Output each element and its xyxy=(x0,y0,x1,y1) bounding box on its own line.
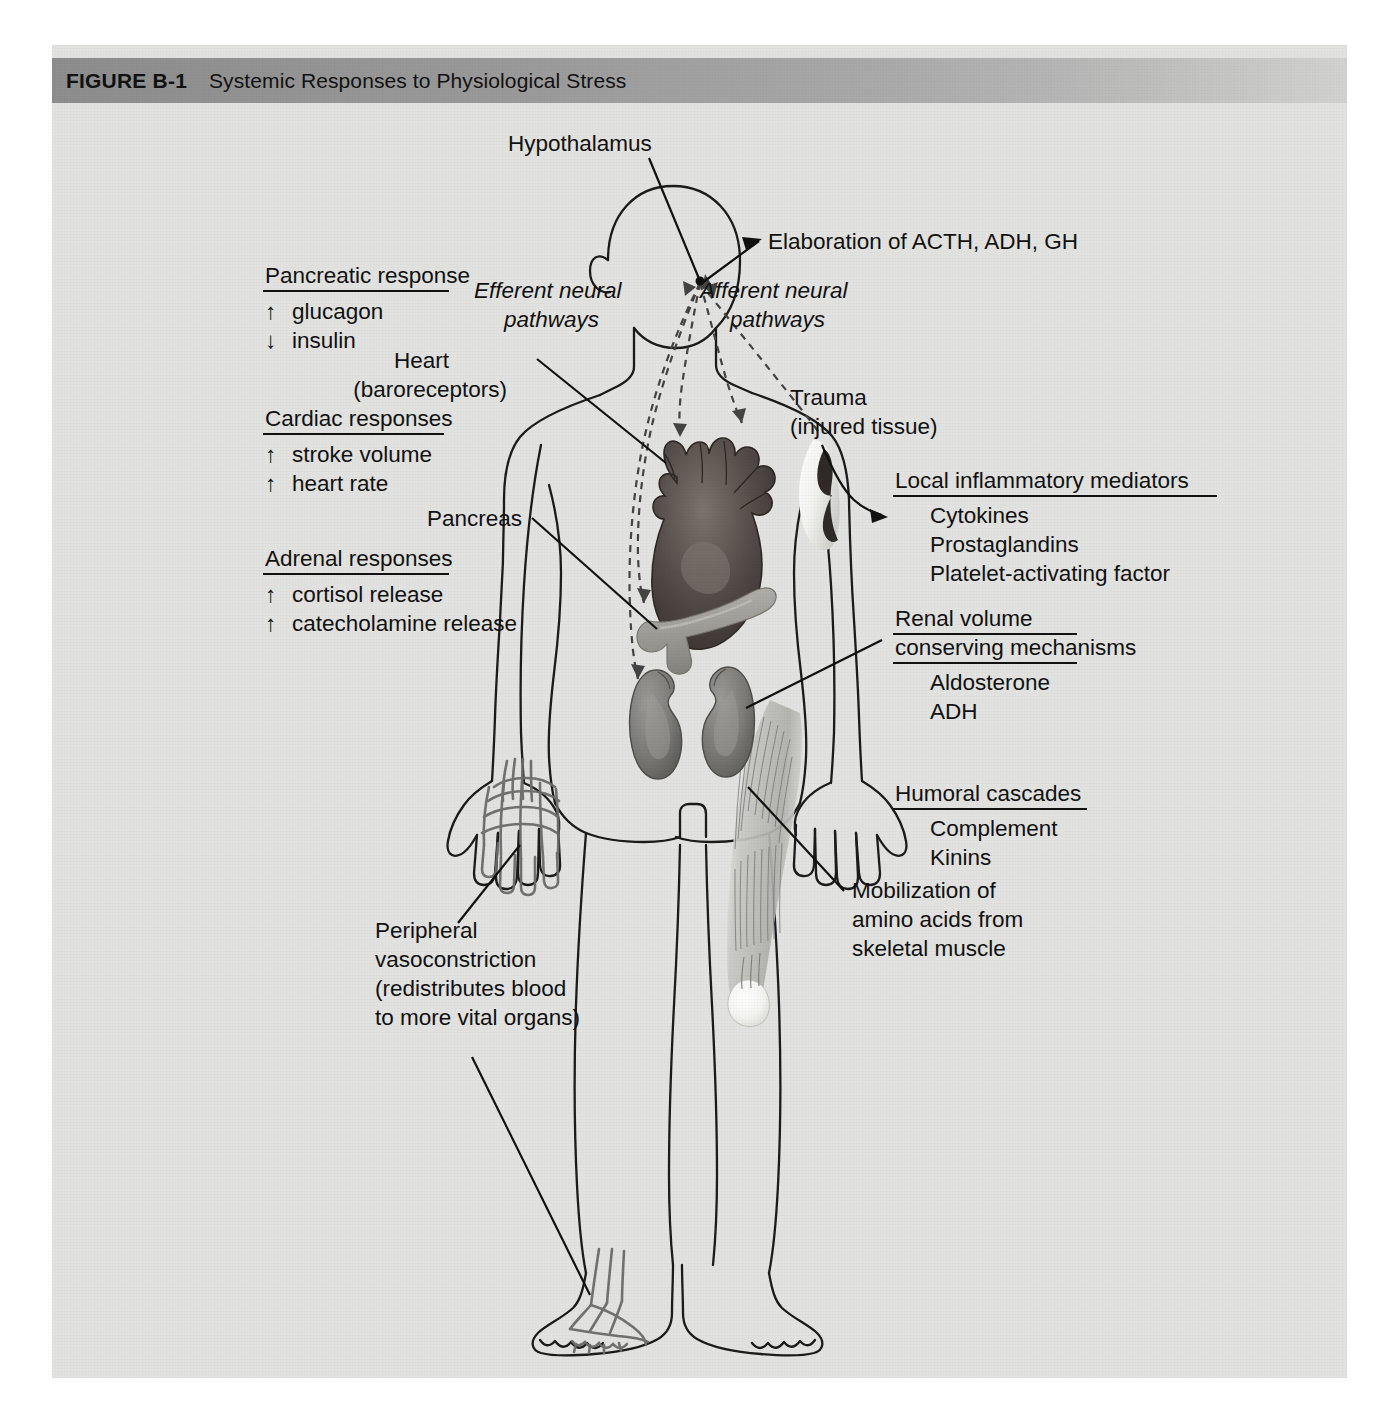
callout-line: skeletal muscle xyxy=(852,936,1006,961)
foot-vascular-network xyxy=(570,1249,648,1353)
label-trauma-line2: (injured tissue) xyxy=(790,414,938,439)
hand-vascular-network xyxy=(482,759,559,895)
callout-line: amino acids from xyxy=(852,907,1023,932)
callout-line: Mobilization of xyxy=(852,878,997,903)
label-efferent-line1: Efferent neural xyxy=(474,278,623,303)
item-text: insulin xyxy=(292,328,356,353)
block-renal-volume: Renal volume conserving mechanisms Aldos… xyxy=(893,606,1136,724)
body-outline xyxy=(448,186,907,1355)
callout-line: to more vital organs) xyxy=(375,1005,580,1030)
callout-peripheral-vasoconstriction: Peripheral vasoconstriction (redistribut… xyxy=(375,918,580,1030)
heading-text: Renal volume xyxy=(895,606,1033,631)
arrow-glyph: ↑ xyxy=(265,442,276,467)
block-local-inflammatory-mediators: Local inflammatory mediators Cytokines P… xyxy=(893,468,1217,586)
arrow-glyph: ↓ xyxy=(265,328,276,353)
item-text: Kinins xyxy=(930,845,991,870)
callout-line: (redistributes blood xyxy=(375,976,566,1001)
item-text: Platelet-activating factor xyxy=(930,561,1171,586)
arrow-glyph: ↑ xyxy=(265,471,276,496)
item-text: stroke volume xyxy=(292,442,432,467)
item-text: heart rate xyxy=(292,471,388,496)
label-afferent-line1: Afferent neural xyxy=(698,278,849,303)
label-pancreas: Pancreas xyxy=(427,506,522,531)
heading-text: Pancreatic response xyxy=(265,263,470,288)
heading-text: Humoral cascades xyxy=(895,781,1081,806)
label-hypothalamus: Hypothalamus xyxy=(508,131,652,156)
label-trauma-line1: Trauma xyxy=(790,385,867,410)
label-efferent-line2: pathways xyxy=(503,307,599,332)
trauma-injury xyxy=(799,440,840,550)
item-text: Cytokines xyxy=(930,503,1029,528)
callout-mobilization: Mobilization of amino acids from skeleta… xyxy=(852,878,1023,961)
figure-panel: FIGURE B-1 Systemic Responses to Physiol… xyxy=(52,45,1347,1378)
heading-text: conserving mechanisms xyxy=(895,635,1136,660)
label-heart-line1: Heart xyxy=(394,348,450,373)
block-cardiac-responses: Cardiac responses ↑ stroke volume ↑ hear… xyxy=(263,406,453,496)
item-text: Aldosterone xyxy=(930,670,1050,695)
label-afferent-line2: pathways xyxy=(729,307,825,332)
kidney-left xyxy=(630,670,682,779)
item-text: Prostaglandins xyxy=(930,532,1079,557)
block-pancreatic-response: Pancreatic response ↑ glucagon ↓ insulin xyxy=(263,263,470,353)
arrow-glyph: ↑ xyxy=(265,582,276,607)
callout-line: vasoconstriction xyxy=(375,947,536,972)
label-heart-line2: (baroreceptors) xyxy=(353,377,507,402)
heading-text: Local inflammatory mediators xyxy=(895,468,1189,493)
label-elaboration: Elaboration of ACTH, ADH, GH xyxy=(768,229,1078,254)
stress-response-diagram: Hypothalamus Elaboration of ACTH, ADH, G… xyxy=(52,45,1347,1378)
heading-text: Adrenal responses xyxy=(265,546,453,571)
block-humoral-cascades: Humoral cascades Complement Kinins xyxy=(893,781,1087,870)
kidney-right xyxy=(702,667,754,777)
item-text: ADH xyxy=(930,699,978,724)
item-text: catecholamine release xyxy=(292,611,517,636)
callout-line: Peripheral xyxy=(375,918,478,943)
arrow-glyph: ↑ xyxy=(265,299,276,324)
item-text: Complement xyxy=(930,816,1058,841)
item-text: glucagon xyxy=(292,299,383,324)
heading-text: Cardiac responses xyxy=(265,406,453,431)
block-adrenal-responses: Adrenal responses ↑ cortisol release ↑ c… xyxy=(263,546,517,636)
item-text: cortisol release xyxy=(292,582,443,607)
arrow-glyph: ↑ xyxy=(265,611,276,636)
